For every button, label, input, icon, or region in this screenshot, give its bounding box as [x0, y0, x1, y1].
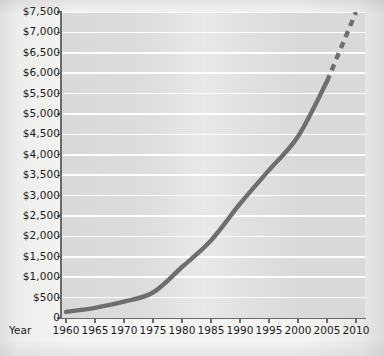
y-axis-tick-label: $500 [33, 291, 60, 303]
series-line-actual [66, 81, 327, 312]
x-axis-tick [268, 318, 269, 323]
y-axis-tick-label: $5,500 [23, 87, 60, 99]
x-axis-tick [123, 318, 124, 323]
y-axis-tick-label: $6,000 [23, 66, 60, 78]
chart-page: $7,500$7,000$6,500$6,000$5,500$5,000$4,5… [0, 0, 384, 356]
x-axis-tick [297, 318, 298, 323]
series-layer [61, 12, 365, 318]
series-line-projected [327, 12, 356, 81]
x-axis-tick [65, 318, 66, 323]
y-axis-tick-label: $2,500 [23, 209, 60, 221]
y-axis-tick-label: $4,500 [23, 127, 60, 139]
x-axis-tick [326, 318, 327, 323]
y-axis-tick-label: $2,000 [23, 229, 60, 241]
x-axis-tick [181, 318, 182, 323]
y-axis-tick-label: $1,500 [23, 250, 60, 262]
y-axis-tick-label: $4,000 [23, 148, 60, 160]
x-axis-tick [94, 318, 95, 323]
y-axis-tick-label: $5,000 [23, 107, 60, 119]
x-axis-tick [239, 318, 240, 323]
x-axis-tick [355, 318, 356, 323]
y-axis-tick-label: 0 [53, 311, 60, 323]
x-axis-title: Year [9, 324, 31, 336]
x-axis-tick [152, 318, 153, 323]
y-axis-tick-label: $7,000 [23, 25, 60, 37]
y-axis-tick-label: $6,500 [23, 46, 60, 58]
y-axis-line [60, 11, 62, 319]
y-axis-tick-label: $1,000 [23, 270, 60, 282]
y-axis-tick-label: $7,500 [23, 5, 60, 17]
x-axis-line [60, 318, 366, 320]
plot-area [61, 12, 365, 318]
x-axis-tick-label: 2010 [339, 324, 373, 336]
x-axis-tick [210, 318, 211, 323]
y-axis-tick-label: $3,000 [23, 189, 60, 201]
y-axis-tick-label: $3,500 [23, 168, 60, 180]
